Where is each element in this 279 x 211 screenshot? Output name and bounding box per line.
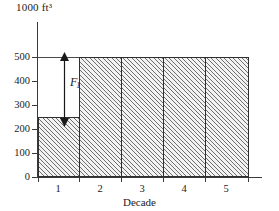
y-tick-label-200: 200 <box>14 124 30 134</box>
f1-annotation-label-subscript: 1 <box>76 81 80 90</box>
x-tick-boundary-1 <box>79 177 80 182</box>
x-tick-label-2: 2 <box>88 183 112 195</box>
f1-annotation-label: F1 <box>70 76 81 90</box>
x-tick-boundary-2 <box>121 177 122 182</box>
x-tick-label-3: 3 <box>130 183 154 195</box>
bar-decade-5 <box>205 57 249 177</box>
x-tick-label-4: 4 <box>172 183 196 195</box>
y-tick-label-500: 500 <box>14 52 30 62</box>
x-tick-boundary-5 <box>248 177 249 182</box>
x-tick-label-1: 1 <box>46 183 70 195</box>
y-tick-label-300: 300 <box>14 100 30 110</box>
bar-chart: 1000 ft³ 0 100 200 300 400 500 <box>0 0 279 211</box>
x-axis-title: Decade <box>0 196 279 209</box>
x-tick-boundary-3 <box>163 177 164 182</box>
bar-decade-4 <box>163 57 206 177</box>
y-tick-label-0: 0 <box>25 172 30 182</box>
x-tick-boundary-4 <box>205 177 206 182</box>
plot-area: 0 100 200 300 400 500 1 2 3 4 5 <box>0 0 279 211</box>
x-tick-label-5: 5 <box>214 183 238 195</box>
bar-decade-3 <box>121 57 164 177</box>
y-tick-label-400: 400 <box>14 76 30 86</box>
x-tick-boundary-0 <box>38 177 39 182</box>
y-tick-label-100: 100 <box>14 148 30 158</box>
bar-decade-2 <box>79 57 122 177</box>
